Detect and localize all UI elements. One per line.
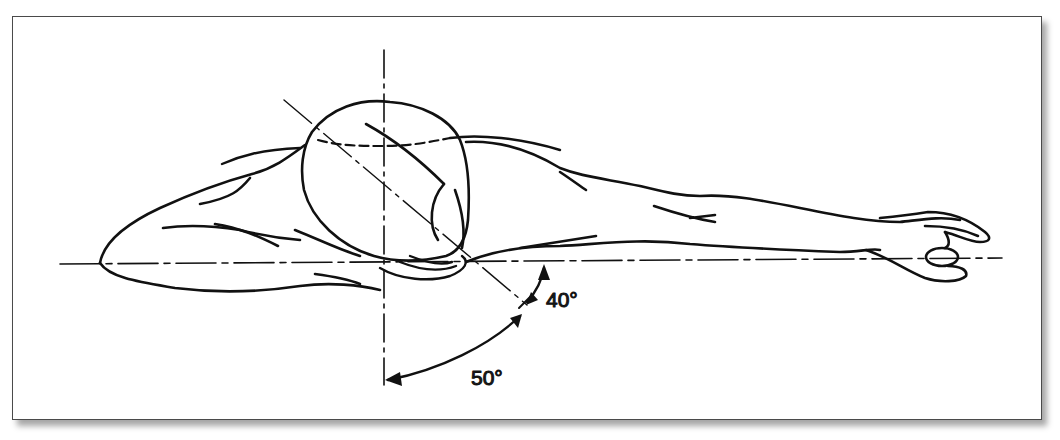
shoulder-outline: [222, 137, 560, 280]
angle-40-label: 40°: [546, 288, 578, 311]
right-arm-outline: [466, 142, 960, 262]
horizontal-axis: [60, 258, 1002, 264]
head-outline: [302, 101, 469, 260]
left-arm-outline: [100, 145, 380, 291]
angle-50-label: 50°: [471, 366, 503, 389]
swimmer-diagram: 40° 50°: [0, 0, 1060, 440]
